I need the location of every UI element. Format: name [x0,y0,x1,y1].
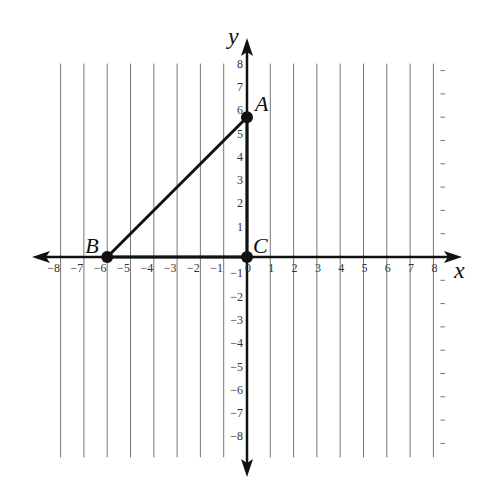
point-label-C: C [253,233,268,258]
x-tick-label: 6 [385,261,391,275]
point-A [241,111,253,123]
y-axis-label: y [226,23,239,49]
x-axis-label: x [453,257,465,283]
y-tick-label: 2 [237,196,243,210]
y-tick-label: −4 [230,336,243,350]
x-tick-label: 1 [268,261,274,275]
x-tick-label: 7 [408,261,414,275]
point-label-A: A [253,91,269,116]
x-tick-label: −3 [164,261,177,275]
y-tick-label: −2 [230,290,243,304]
point-C [241,251,253,263]
point-label-B: B [85,233,98,258]
y-tick-label: −8 [230,429,243,443]
y-tick-label: 5 [237,127,243,141]
y-tick-label: 4 [237,150,243,164]
coordinate-plane: xy −8−7−6−5−4−3−2−1012345678−8−7−6−5−4−3… [0,0,500,492]
y-tick-label: −5 [230,360,243,374]
y-tick-label: 3 [237,173,243,187]
y-tick-label: −6 [230,383,243,397]
y-tick-label: 1 [237,220,243,234]
x-tick-label: −6 [94,261,107,275]
y-tick-label: −3 [230,313,243,327]
y-tick-label: 8 [237,57,243,71]
x-tick-label: 5 [362,261,368,275]
x-tick-label: 0 [245,261,251,275]
x-tick-label: 8 [431,261,437,275]
x-tick-label: −2 [187,261,200,275]
x-tick-label: −7 [71,261,84,275]
x-tick-label: −5 [117,261,130,275]
x-tick-label: −4 [140,261,153,275]
x-tick-label: 3 [315,261,321,275]
point-B [101,251,113,263]
y-tick-label: −7 [230,406,243,420]
x-tick-label: 2 [292,261,298,275]
x-tick-label: −8 [47,261,60,275]
y-tick-label: 7 [237,80,243,94]
y-tick-label: −1 [230,266,243,280]
x-tick-label: 4 [338,261,344,275]
x-tick-label: −1 [210,261,223,275]
